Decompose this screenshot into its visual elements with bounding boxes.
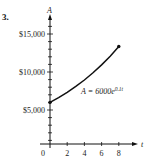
x-tick-6: 6 — [100, 149, 104, 158]
problem-number: 3. — [2, 12, 9, 22]
exponential-growth-chart: 3. A t $15,000 $10,000 $5,000 0 2 4 6 — [0, 0, 151, 168]
end-point — [117, 45, 120, 48]
start-point — [48, 101, 51, 104]
y-tick-15000: $15,000 — [19, 30, 45, 39]
x-axis-arrow-icon — [132, 142, 138, 146]
equation-annotation: A = 6000e0.1t — [80, 86, 124, 97]
y-tick-10000: $10,000 — [19, 68, 45, 77]
x-tick-8: 8 — [117, 149, 121, 158]
y-tick-5000: $5,000 — [23, 106, 45, 115]
x-tick-4: 4 — [82, 149, 86, 158]
x-tick-0: 0 — [41, 149, 45, 158]
x-axis-label: t — [141, 140, 144, 149]
y-axis-label: A — [46, 6, 52, 15]
x-tick-2: 2 — [65, 149, 69, 158]
